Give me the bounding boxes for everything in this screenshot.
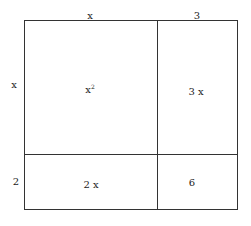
- horizontal-divider: [24, 154, 238, 155]
- top-label-3: 3: [194, 11, 200, 21]
- side-label-2: 2: [13, 177, 19, 187]
- cell-x-squared-exponent: 2: [91, 83, 95, 90]
- cell-3x: 3 x: [188, 87, 203, 97]
- cell-6: 6: [189, 178, 195, 188]
- outer-rectangle: [24, 20, 238, 210]
- side-label-x: x: [11, 80, 17, 90]
- top-label-x: x: [87, 11, 93, 21]
- cell-2x: 2 x: [83, 180, 98, 190]
- vertical-divider: [157, 20, 158, 210]
- cell-x-squared: x2: [85, 82, 94, 95]
